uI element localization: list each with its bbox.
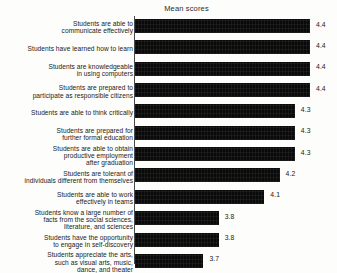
bar-value-label: 4.1 xyxy=(270,191,280,198)
bar-track xyxy=(135,168,280,182)
bar-row: Students are able to think critically4.3 xyxy=(0,102,337,123)
bar-fill[interactable] xyxy=(135,233,219,247)
bar-category-label: Students are tolerant ofindividuals diff… xyxy=(1,170,133,185)
bar-category-label-line: further formal education xyxy=(1,134,133,141)
bar-category-label-line: Students have the opportunity xyxy=(1,234,133,241)
bar-track xyxy=(135,104,295,118)
bar-category-label-line: Students know a large number of xyxy=(1,209,133,216)
bar-row: Students have learned how to learn4.4 xyxy=(0,38,337,59)
bar-category-label: Students are able tocommunicate effectiv… xyxy=(1,20,133,35)
bar-track xyxy=(135,254,203,268)
bar-track xyxy=(135,19,310,33)
bar-value-label: 4.2 xyxy=(286,170,296,177)
bar-fill[interactable] xyxy=(135,211,219,225)
bar-row: Students are tolerant ofindividuals diff… xyxy=(0,166,337,187)
bar-track xyxy=(135,62,310,76)
bar-category-label-line: Students are able to xyxy=(1,20,133,27)
bar-category-label-line: individuals different from themselves xyxy=(1,177,133,184)
bar-category-label-line: to engage in self-discovery xyxy=(1,241,133,248)
bar-category-label-line: after graduation xyxy=(1,159,133,166)
bar-value-label: 4.4 xyxy=(316,63,326,70)
bar-value-label: 4.3 xyxy=(301,149,311,156)
bar-category-label-line: Students are knowledgeable xyxy=(1,63,133,70)
bar-value-label: 4.3 xyxy=(301,127,311,134)
bar-category-label: Students have the opportunityto engage i… xyxy=(1,234,133,249)
bar-fill[interactable] xyxy=(135,19,310,33)
bar-category-label-line: such as visual arts, music, xyxy=(1,259,133,266)
bar-category-label: Students are knowledgeablein using compu… xyxy=(1,63,133,78)
bar-category-label-line: facts from the social sciences, xyxy=(1,216,133,223)
bar-row: Students are prepared forfurther formal … xyxy=(0,124,337,145)
bar-value-label: 4.4 xyxy=(316,85,326,92)
plot-area: Students are able tocommunicate effectiv… xyxy=(0,16,337,268)
bar-row: Students are able tocommunicate effectiv… xyxy=(0,17,337,38)
bar-category-label-line: in using computers xyxy=(1,70,133,77)
bar-fill[interactable] xyxy=(135,83,310,97)
bar-fill[interactable] xyxy=(135,126,295,140)
bar-category-label: Students are able to think critically xyxy=(1,109,133,116)
bar-fill[interactable] xyxy=(135,104,295,118)
bar-row: Students are prepared toparticipate as r… xyxy=(0,81,337,102)
bar-row: Students appreciate the arts,such as vis… xyxy=(0,252,337,273)
bar-fill[interactable] xyxy=(135,254,203,268)
bar-value-label: 3.7 xyxy=(209,255,219,262)
bar-fill[interactable] xyxy=(135,40,310,54)
bar-row: Students are able to obtainproductive em… xyxy=(0,145,337,166)
bar-category-label: Students appreciate the arts,such as vis… xyxy=(1,251,133,273)
bar-category-label: Students are able to workeffectively in … xyxy=(1,191,133,206)
bar-category-label: Students know a large number offacts fro… xyxy=(1,209,133,231)
bar-category-label-line: Students appreciate the arts, xyxy=(1,251,133,258)
bar-category-label-line: Students are able to work xyxy=(1,191,133,198)
bar-track xyxy=(135,40,310,54)
bar-category-label-line: dance, and theater xyxy=(1,266,133,273)
bar-category-label-line: literature, and sciences xyxy=(1,223,133,230)
bar-category-label-line: communicate effectively xyxy=(1,27,133,34)
bar-fill[interactable] xyxy=(135,62,310,76)
bar-row: Students are able to workeffectively in … xyxy=(0,188,337,209)
bar-category-label-line: Students are able to obtain xyxy=(1,145,133,152)
bar-category-label-line: Students are tolerant of xyxy=(1,170,133,177)
bar-category-label: Students are able to obtainproductive em… xyxy=(1,145,133,167)
chart-title: Mean scores xyxy=(18,4,337,13)
bar-category-label-line: effectively in teams xyxy=(1,198,133,205)
bar-track xyxy=(135,190,264,204)
bar-fill[interactable] xyxy=(135,190,264,204)
bar-category-label: Students are prepared forfurther formal … xyxy=(1,127,133,142)
bar-category-label-line: Students are able to think critically xyxy=(1,109,133,116)
bar-category-label-line: Students have learned how to learn xyxy=(1,45,133,52)
bar-value-label: 4.3 xyxy=(301,106,311,113)
bar-track xyxy=(135,83,310,97)
bar-value-label: 3.8 xyxy=(225,234,235,241)
bar-fill[interactable] xyxy=(135,147,295,161)
bar-row: Students have the opportunityto engage i… xyxy=(0,231,337,252)
bar-track xyxy=(135,126,295,140)
bar-row: Students know a large number offacts fro… xyxy=(0,209,337,230)
bar-value-label: 4.4 xyxy=(316,21,326,28)
bar-category-label-line: Students are prepared for xyxy=(1,127,133,134)
bar-category-label: Students are prepared toparticipate as r… xyxy=(1,84,133,99)
bar-row: Students are knowledgeablein using compu… xyxy=(0,60,337,81)
bar-category-label: Students have learned how to learn xyxy=(1,45,133,52)
bar-fill[interactable] xyxy=(135,168,280,182)
bar-value-label: 3.8 xyxy=(225,213,235,220)
bar-chart: Mean scores Students are able tocommunic… xyxy=(0,0,337,273)
bar-track xyxy=(135,233,219,247)
bar-track xyxy=(135,211,219,225)
bar-value-label: 4.4 xyxy=(316,42,326,49)
bar-category-label-line: participate as responsible citizens xyxy=(1,92,133,99)
bar-track xyxy=(135,147,295,161)
bar-category-label-line: productive employment xyxy=(1,152,133,159)
bar-category-label-line: Students are prepared to xyxy=(1,84,133,91)
